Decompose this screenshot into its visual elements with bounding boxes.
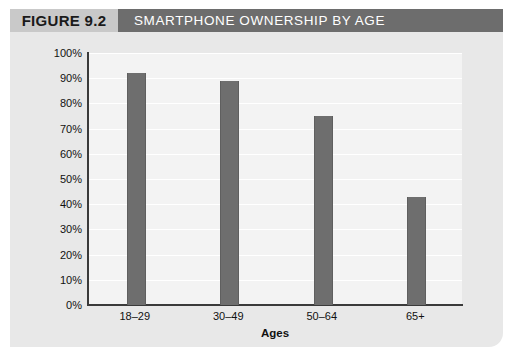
- y-axis-tick-label: 80%: [30, 97, 82, 109]
- bar: [314, 116, 333, 305]
- y-axis-tick-label: 40%: [30, 198, 82, 210]
- y-axis-tick-label: 90%: [30, 72, 82, 84]
- figure-container: FIGURE 9.2 SMARTPHONE OWNERSHIP BY AGE 1…: [0, 0, 513, 359]
- y-axis-tick-label: 70%: [30, 123, 82, 135]
- y-axis-tick-label: 50%: [30, 173, 82, 185]
- bar: [220, 81, 239, 305]
- x-axis-tick-label: 65+: [355, 310, 475, 322]
- bar: [407, 197, 426, 305]
- y-axis-tick-label: 100%: [30, 47, 82, 59]
- y-axis-tick-label: 30%: [30, 223, 82, 235]
- y-axis-tick-label: 20%: [30, 249, 82, 261]
- x-axis-title: Ages: [88, 327, 462, 339]
- y-axis-line: [87, 52, 89, 306]
- bar-chart: 100%90%80%70%60%50%40%30%20%10%0% 18–293…: [0, 0, 513, 359]
- y-axis-tick-label: 60%: [30, 148, 82, 160]
- bar: [127, 73, 146, 305]
- y-axis-tick-label: 10%: [30, 274, 82, 286]
